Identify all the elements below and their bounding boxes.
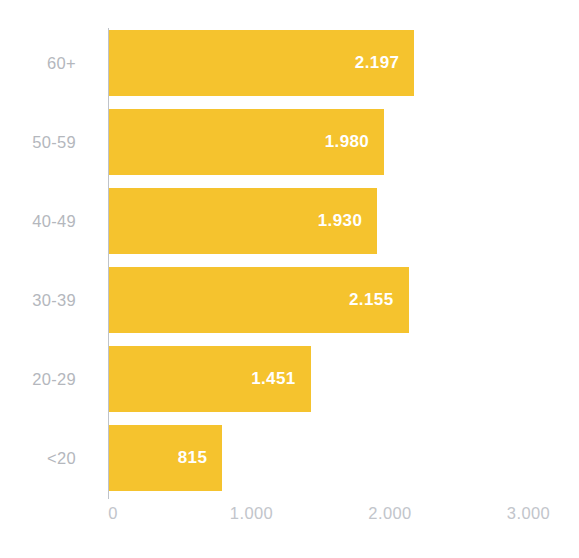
category-label: 40-49: [32, 188, 76, 254]
bar-row: 40-491.930: [0, 188, 579, 254]
x-tick-label: 3.000: [507, 504, 550, 523]
clipped-caption: ​: [0, 546, 579, 558]
bar-value-label: 1.451: [251, 369, 311, 389]
bar: 1.930: [109, 188, 377, 254]
bar: 2.155: [109, 267, 409, 333]
bar: 1.451: [109, 346, 311, 412]
bar-value-label: 1.980: [325, 132, 385, 152]
bar-value-label: 815: [178, 448, 223, 468]
bar-row: 50-591.980: [0, 109, 579, 175]
category-label: 60+: [47, 30, 76, 96]
x-tick-label: 2.000: [368, 504, 411, 523]
bar-value-label: 2.155: [349, 290, 409, 310]
plot-area: 60+2.19750-591.98040-491.93030-392.15520…: [0, 0, 579, 500]
bar-row: 60+2.197: [0, 30, 579, 96]
bar-value-label: 1.930: [318, 211, 378, 231]
bar-row: 30-392.155: [0, 267, 579, 333]
horizontal-bar-chart: 60+2.19750-591.98040-491.93030-392.15520…: [0, 0, 579, 558]
bar: 1.980: [109, 109, 384, 175]
bar-value-label: 2.197: [355, 53, 415, 73]
bar-row: 20-291.451: [0, 346, 579, 412]
x-axis-tick-labels: 01.0002.0003.000: [0, 504, 579, 532]
bar: 815: [109, 425, 222, 491]
bar-row: <20815: [0, 425, 579, 491]
x-tick-label: 0: [108, 504, 118, 523]
bar: 2.197: [109, 30, 414, 96]
category-label: 50-59: [32, 109, 76, 175]
category-label: <20: [47, 425, 76, 491]
x-tick-label: 1.000: [230, 504, 273, 523]
category-label: 20-29: [32, 346, 76, 412]
category-label: 30-39: [32, 267, 76, 333]
